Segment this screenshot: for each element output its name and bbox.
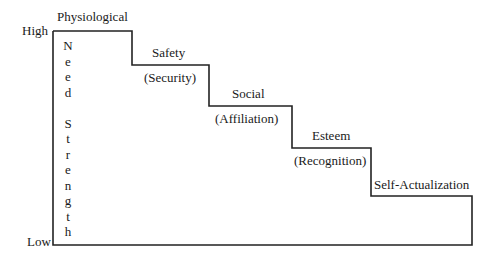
letter: e bbox=[61, 162, 75, 178]
letter: e bbox=[61, 54, 75, 70]
letter: n bbox=[61, 178, 75, 194]
letter: r bbox=[61, 147, 75, 163]
step-safety-label: Safety bbox=[152, 45, 185, 60]
letter: h bbox=[61, 224, 75, 240]
letter: e bbox=[61, 69, 75, 85]
step-social-label: Social bbox=[232, 86, 265, 101]
letter: t bbox=[61, 131, 75, 147]
step-physiological-label: Physiological bbox=[57, 9, 128, 24]
axis-low-label: Low bbox=[27, 234, 51, 249]
letter: N bbox=[61, 38, 75, 54]
step-self-actualization-label: Self-Actualization bbox=[374, 177, 469, 192]
letter: t bbox=[61, 209, 75, 225]
step-esteem-subtitle: (Recognition) bbox=[294, 153, 366, 168]
step-safety-subtitle: (Security) bbox=[144, 70, 196, 85]
letter-gap bbox=[61, 100, 75, 116]
maslow-need-hierarchy-diagram: High Low N e e d S t r e n g t h Physiol… bbox=[0, 0, 499, 258]
axis-high-label: High bbox=[22, 23, 48, 38]
letter: S bbox=[61, 116, 75, 132]
step-esteem-label: Esteem bbox=[312, 128, 350, 143]
letter: d bbox=[61, 85, 75, 101]
step-social-subtitle: (Affiliation) bbox=[215, 111, 278, 126]
letter: g bbox=[61, 193, 75, 209]
need-strength-vertical-label: N e e d S t r e n g t h bbox=[61, 38, 75, 240]
